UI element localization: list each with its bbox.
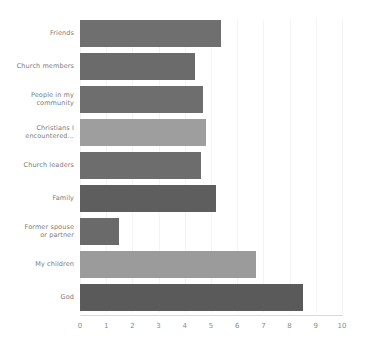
category-label: Christians Iencountered... bbox=[0, 124, 74, 141]
x-tick-label: 6 bbox=[227, 322, 247, 330]
category-label: Former spouseor partner bbox=[0, 223, 74, 240]
category-label: God bbox=[0, 293, 74, 302]
x-axis-baseline bbox=[80, 315, 343, 316]
bar-fill bbox=[80, 185, 216, 212]
category-label: Church leaders bbox=[0, 161, 74, 170]
x-tick-label: 10 bbox=[332, 322, 352, 330]
category-label-line: My children bbox=[0, 260, 74, 269]
bar-fill bbox=[80, 218, 119, 245]
category-label-line: Church leaders bbox=[0, 161, 74, 170]
category-label-line: encountered... bbox=[0, 132, 74, 141]
bar bbox=[80, 53, 195, 80]
category-label: People in mycommunity bbox=[0, 91, 74, 108]
bar bbox=[80, 119, 206, 146]
category-label-line: community bbox=[0, 99, 74, 108]
category-label-line: People in my bbox=[0, 91, 74, 100]
category-label-line: Former spouse bbox=[0, 223, 74, 232]
x-tick-label: 9 bbox=[306, 322, 326, 330]
x-tick-label: 7 bbox=[253, 322, 273, 330]
gridline-8 bbox=[290, 20, 291, 313]
category-label-line: or partner bbox=[0, 231, 74, 240]
category-label-line: Christians I bbox=[0, 124, 74, 133]
category-label-line: Family bbox=[0, 194, 74, 203]
bar-fill bbox=[80, 284, 303, 311]
x-tick-label: 1 bbox=[96, 322, 116, 330]
x-tick-label: 2 bbox=[122, 322, 142, 330]
category-label: Church members bbox=[0, 62, 74, 71]
x-tick-label: 0 bbox=[70, 322, 90, 330]
gridline-7 bbox=[263, 20, 264, 313]
bar-fill bbox=[80, 86, 203, 113]
category-label-line: Church members bbox=[0, 62, 74, 71]
bar bbox=[80, 152, 201, 179]
category-label: Family bbox=[0, 194, 74, 203]
bar bbox=[80, 284, 303, 311]
bar bbox=[80, 185, 216, 212]
bar-fill bbox=[80, 251, 256, 278]
bar-fill bbox=[80, 152, 201, 179]
bar-fill bbox=[80, 53, 195, 80]
category-label-line: Friends bbox=[0, 29, 74, 38]
category-label-line: God bbox=[0, 293, 74, 302]
bar-fill bbox=[80, 119, 206, 146]
x-tick-label: 5 bbox=[201, 322, 221, 330]
gridline-9 bbox=[316, 20, 317, 313]
x-tick-label: 3 bbox=[149, 322, 169, 330]
category-label: My children bbox=[0, 260, 74, 269]
x-tick-label: 8 bbox=[280, 322, 300, 330]
category-label: Friends bbox=[0, 29, 74, 38]
bar bbox=[80, 86, 203, 113]
bar-chart: FriendsChurch membersPeople in mycommuni… bbox=[0, 0, 369, 364]
gridline-10 bbox=[342, 20, 343, 313]
bar bbox=[80, 20, 221, 47]
bar bbox=[80, 218, 119, 245]
x-tick-label: 4 bbox=[175, 322, 195, 330]
bar bbox=[80, 251, 256, 278]
bar-fill bbox=[80, 20, 221, 47]
